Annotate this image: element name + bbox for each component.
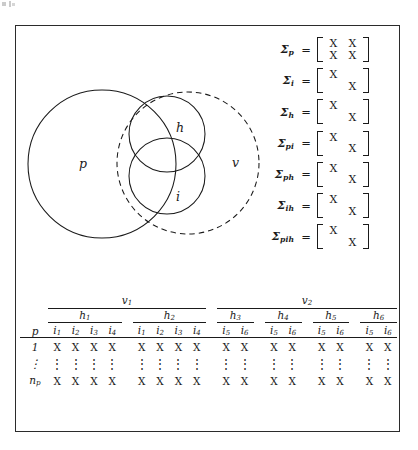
matrix-cell: X	[343, 112, 362, 124]
matrix-cell: X	[343, 174, 362, 186]
design-table-grid: v1v2h1h2h3h4h5h6pi1i2i3i4i1i2i3i4i5i6i5i…	[20, 294, 397, 389]
matrix-cell: X	[324, 194, 343, 206]
sigma-symbol: Σ	[280, 42, 288, 56]
symbol-subscript: 1	[86, 314, 90, 322]
table-cell: ⋮	[103, 355, 121, 372]
group-gap	[122, 372, 133, 389]
group-gap	[122, 355, 133, 372]
matrix-cell: X	[324, 69, 343, 81]
table-cell: ⋮	[66, 355, 84, 372]
symbol-subscript: 2	[75, 329, 79, 337]
sigma-label-i: Σi	[244, 73, 295, 88]
matrix-row: Σph=XX	[244, 159, 401, 190]
matrix-bracket-group: XX	[317, 68, 369, 93]
matrix-cell	[324, 81, 343, 93]
group-gap	[206, 338, 217, 356]
i-column-header: i1	[48, 323, 66, 338]
right-bracket-icon	[363, 37, 369, 62]
i-column-header: i2	[66, 323, 84, 338]
row-header-cell: np	[20, 372, 48, 389]
table-cell: ⋮	[169, 355, 187, 372]
sigma-subscript: i	[291, 79, 294, 88]
table-row: ⋮⋮⋮⋮⋮⋮⋮⋮⋮⋮⋮⋮⋮⋮⋮⋮⋮	[20, 355, 397, 372]
vertical-dots: ⋮	[51, 361, 63, 368]
symbol-subscript: 5	[273, 329, 277, 337]
group-gap	[122, 308, 133, 323]
row-header-cell: ⋮	[20, 355, 48, 372]
sigma-label-ih: Σih	[244, 198, 295, 213]
sigma-label-p: Σp	[244, 42, 295, 57]
group-gap	[254, 355, 265, 372]
table-cell: X	[169, 372, 187, 389]
symbol-subscript: 6	[292, 329, 296, 337]
i-column-header: i5	[217, 323, 235, 338]
matrix-cell	[343, 225, 362, 237]
h-group-label: h1	[48, 308, 122, 323]
matrix-cells: XXXX	[324, 38, 362, 61]
table-cell: ⋮	[360, 355, 378, 372]
sigma-subscript: h	[288, 110, 294, 119]
matrix-cell	[324, 237, 343, 249]
group-gap	[302, 355, 313, 372]
group-gap	[122, 323, 133, 338]
i-column-header: i6	[379, 323, 397, 338]
symbol-subscript: 3	[178, 329, 182, 337]
figure-frame: p v h i Σp=XXXXΣi=XXΣh=XXΣpi=XXΣph=XXΣih…	[15, 25, 400, 432]
table-row: 1XXXXXXXXXXXXXXXX	[20, 338, 397, 356]
covariance-matrix-list: Σp=XXXXΣi=XXΣh=XXΣpi=XXΣph=XXΣih=XXΣpih=…	[244, 34, 401, 252]
symbol-subscript: 4	[284, 314, 288, 322]
group-gap	[302, 308, 313, 323]
equals-sign: =	[295, 105, 317, 119]
i-column-header: i1	[133, 323, 151, 338]
group-gap	[349, 355, 360, 372]
matrix-cell	[324, 112, 343, 124]
v-group-label-row: v1v2	[20, 294, 397, 308]
matrix-cell: X	[324, 225, 343, 237]
table-cell: X	[331, 338, 349, 356]
table-cell: X	[66, 372, 84, 389]
sigma-symbol: Σ	[275, 167, 283, 181]
table-cell: X	[379, 338, 397, 356]
equals-sign: =	[295, 167, 317, 181]
table-cell: X	[151, 338, 169, 356]
equals-sign: =	[295, 230, 317, 244]
table-cell: X	[85, 372, 103, 389]
matrix-cell: X	[343, 237, 362, 249]
row-header-cell: 1	[20, 338, 48, 356]
matrix-cell: X	[324, 50, 343, 62]
left-bracket-icon	[317, 162, 323, 187]
table-cell: X	[103, 372, 121, 389]
group-gap	[206, 323, 217, 338]
vertical-dots: ⋮	[154, 361, 166, 368]
table-cell: X	[235, 338, 253, 356]
table-cell: X	[217, 372, 235, 389]
right-bracket-icon	[363, 162, 369, 187]
symbol-subscript: 6	[387, 329, 391, 337]
table-cell: X	[48, 338, 66, 356]
matrix-cell: X	[343, 143, 362, 155]
h-group-label: h6	[360, 308, 397, 323]
row-header-label: p	[20, 323, 48, 338]
group-gap	[302, 372, 313, 389]
design-table: v1v2h1h2h3h4h5h6pi1i2i3i4i1i2i3i4i5i6i5i…	[20, 294, 397, 389]
matrix-cells: XX	[324, 163, 362, 186]
i-column-header: i4	[103, 323, 121, 338]
sigma-label-h: Σh	[244, 105, 295, 120]
vertical-dots: ⋮	[286, 361, 298, 368]
group-gap	[302, 323, 313, 338]
table-cell: X	[188, 372, 206, 389]
table-cell: X	[235, 372, 253, 389]
matrix-cells: XX	[324, 69, 362, 92]
i-column-header: i5	[360, 323, 378, 338]
right-bracket-icon	[363, 193, 369, 218]
group-gap	[206, 294, 217, 308]
left-bracket-icon	[317, 193, 323, 218]
sigma-label-pi: Σpi	[244, 136, 295, 151]
matrix-cell: X	[343, 206, 362, 218]
matrix-cell: X	[343, 38, 362, 50]
symbol-subscript: 1	[141, 329, 145, 337]
table-cell: ⋮	[313, 355, 331, 372]
symbol-subscript: 3	[237, 314, 241, 322]
matrix-cell: X	[324, 132, 343, 144]
symbol-subscript: 5	[321, 329, 325, 337]
